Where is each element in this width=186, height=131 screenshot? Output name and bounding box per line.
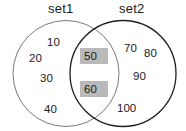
set1-label: set1 (48, 1, 73, 16)
set2-member-90: 90 (133, 70, 146, 83)
set1-member-30: 30 (40, 72, 53, 85)
intersection-member-50: 50 (80, 48, 108, 64)
set2-label: set2 (119, 1, 144, 16)
set1-member-20: 20 (29, 52, 42, 65)
set1-member-10: 10 (47, 36, 60, 49)
venn-circles-svg (0, 0, 186, 131)
set1-member-40: 40 (44, 103, 57, 116)
venn-diagram: set1 set2 10 20 30 40 50 60 70 80 90 100 (0, 0, 186, 131)
set2-member-80: 80 (144, 47, 157, 60)
set2-member-70: 70 (124, 42, 137, 55)
intersection-member-60: 60 (80, 81, 108, 97)
set2-member-100: 100 (117, 102, 136, 115)
set1-circle (13, 21, 119, 127)
